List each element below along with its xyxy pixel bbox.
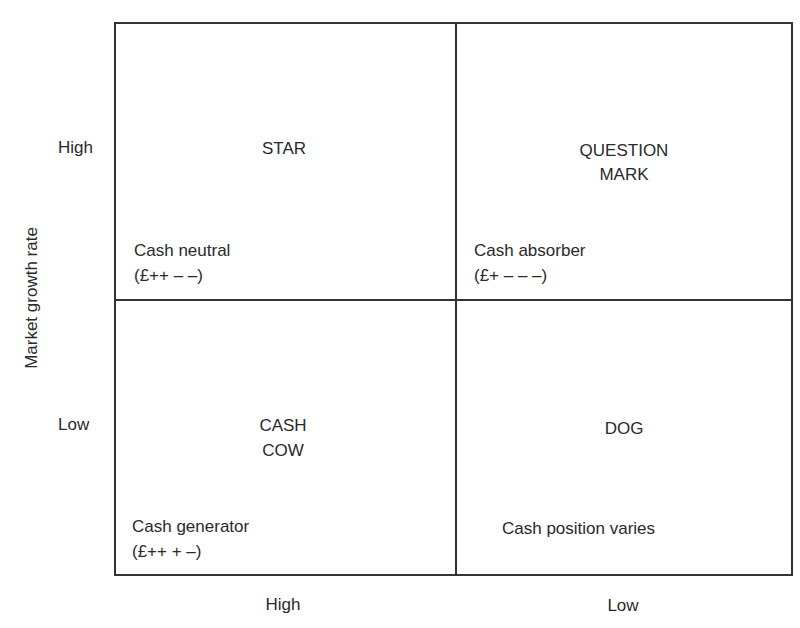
y-axis-low-label: Low bbox=[58, 414, 89, 436]
star-title: STAR bbox=[262, 138, 306, 160]
question-mark-cash-code: (£+ – – –) bbox=[474, 265, 547, 287]
question-mark-cash-label: Cash absorber bbox=[474, 240, 586, 262]
horizontal-divider bbox=[116, 299, 791, 301]
star-cash-code: (£++ – –) bbox=[134, 265, 203, 287]
question-mark-title-line2: MARK bbox=[599, 164, 648, 186]
x-axis-low-label: Low bbox=[607, 595, 638, 617]
y-axis-label: Market growth rate bbox=[22, 227, 42, 369]
cash-cow-title-line2: COW bbox=[262, 440, 304, 462]
question-mark-title-line1: QUESTION bbox=[580, 140, 669, 162]
dog-cash-label: Cash position varies bbox=[502, 518, 655, 540]
y-axis-high-label: High bbox=[58, 137, 93, 159]
cash-cow-cash-label: Cash generator bbox=[132, 516, 249, 538]
cash-cow-title-line1: CASH bbox=[259, 415, 306, 437]
star-cash-label: Cash neutral bbox=[134, 240, 230, 262]
bcg-matrix-grid bbox=[114, 22, 793, 576]
cash-cow-cash-code: (£++ + –) bbox=[132, 541, 201, 563]
dog-title: DOG bbox=[605, 418, 644, 440]
x-axis-high-label: High bbox=[266, 594, 301, 616]
